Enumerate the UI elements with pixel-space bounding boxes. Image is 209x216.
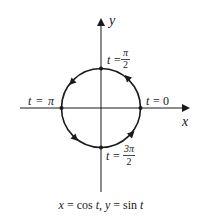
tpi-var: t: [28, 94, 32, 108]
y-axis-label: y: [107, 13, 116, 28]
point-t3pi2: [99, 146, 103, 150]
x-axis-label: x: [181, 114, 189, 129]
t3pi2-var: t: [106, 149, 110, 163]
caption-eq1: = cos: [64, 198, 96, 212]
tpi-eq: =: [36, 94, 43, 108]
tpi2-den: 2: [123, 59, 128, 70]
parametric-circle-diagram: y x t = 0 t = π t = π 2 t = 3π 2 x = cos…: [0, 0, 209, 216]
caption-t2: t: [140, 198, 144, 212]
label-tpi: t = π: [28, 94, 55, 108]
caption-eq2: = sin: [110, 198, 140, 212]
point-t0: [139, 106, 143, 110]
t3pi2-num: 3π: [123, 143, 135, 154]
t0-eq: =: [153, 94, 160, 108]
tpi2-var: t: [107, 53, 111, 67]
point-tpi: [60, 106, 64, 110]
t3pi2-den: 2: [127, 156, 132, 167]
t0-var: t: [146, 94, 150, 108]
caption: x = cos t, y = sin t: [58, 198, 145, 212]
t0-value: 0: [163, 94, 169, 108]
tpi2-eq: =: [114, 53, 121, 67]
point-tpi2: [99, 67, 103, 71]
t3pi2-eq: =: [113, 149, 120, 163]
tpi2-num: π: [123, 47, 129, 58]
label-t0: t = 0: [146, 94, 169, 108]
label-tpi2: t = π 2: [107, 47, 130, 70]
tpi-value: π: [48, 94, 55, 108]
